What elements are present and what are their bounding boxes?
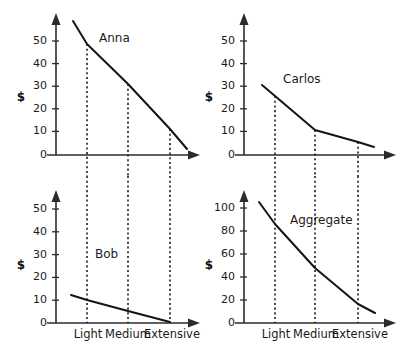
carlos-ytick-label-0: 0 bbox=[228, 148, 235, 161]
panel-aggregate: 100 80 60 40 20 0 $ Aggregate Light Medi… bbox=[205, 176, 396, 341]
bob-ytick-label-50: 50 bbox=[33, 202, 47, 215]
anna-y-axis-arrow bbox=[52, 13, 61, 25]
carlos-y-axis-arrow bbox=[240, 13, 249, 25]
panel-anna: 50 40 30 20 10 0 $ Anna bbox=[17, 13, 200, 176]
carlos-ytick-label-30: 30 bbox=[221, 79, 235, 92]
bob-ytick-label-20: 20 bbox=[33, 270, 47, 283]
bob-series-label: Bob bbox=[95, 247, 118, 261]
anna-ytick-label-20: 20 bbox=[33, 102, 47, 115]
aggregate-xtick-label-light: Light bbox=[262, 327, 291, 341]
carlos-x-axis-arrow bbox=[384, 151, 396, 160]
four-panel-demand-chart: 50 40 30 20 10 0 $ Anna 5 bbox=[0, 0, 406, 351]
bob-ytick-label-30: 30 bbox=[33, 248, 47, 261]
bob-demand-curve bbox=[71, 295, 170, 322]
anna-y-axis-title: $ bbox=[17, 90, 25, 104]
aggregate-xtick-label-extensive: Extensive bbox=[332, 327, 388, 341]
carlos-ytick-label-10: 10 bbox=[221, 124, 235, 137]
aggregate-ytick-label-100: 100 bbox=[214, 201, 235, 214]
bob-ytick-label-40: 40 bbox=[33, 225, 47, 238]
carlos-ytick-label-20: 20 bbox=[221, 102, 235, 115]
bob-xtick-label-light: Light bbox=[74, 327, 103, 341]
panel-carlos: 50 40 30 20 10 0 $ Carlos bbox=[205, 13, 396, 176]
anna-series-label: Anna bbox=[99, 31, 130, 45]
carlos-ytick-label-40: 40 bbox=[221, 57, 235, 70]
aggregate-ytick-label-20: 20 bbox=[221, 293, 235, 306]
bob-xtick-label-extensive: Extensive bbox=[144, 327, 200, 341]
carlos-series-label: Carlos bbox=[283, 72, 321, 86]
bob-y-axis-title: $ bbox=[17, 258, 25, 272]
aggregate-ytick-label-0: 0 bbox=[228, 316, 235, 329]
bob-y-axis-arrow bbox=[52, 190, 61, 202]
aggregate-y-axis-arrow bbox=[240, 190, 249, 202]
carlos-ytick-label-50: 50 bbox=[221, 34, 235, 47]
panel-bob: 50 40 30 20 10 0 $ Bob Light Medium Exte… bbox=[17, 176, 200, 341]
aggregate-ytick-label-40: 40 bbox=[221, 270, 235, 283]
aggregate-ytick-label-80: 80 bbox=[221, 224, 235, 237]
anna-ytick-label-0: 0 bbox=[40, 148, 47, 161]
aggregate-y-axis-title: $ bbox=[205, 258, 213, 272]
anna-ytick-label-40: 40 bbox=[33, 57, 47, 70]
chart-canvas: 50 40 30 20 10 0 $ Anna 5 bbox=[0, 0, 406, 351]
anna-x-axis-arrow bbox=[188, 151, 200, 160]
anna-ytick-label-50: 50 bbox=[33, 34, 47, 47]
aggregate-series-label: Aggregate bbox=[290, 213, 353, 227]
anna-ytick-label-10: 10 bbox=[33, 124, 47, 137]
bob-ytick-label-0: 0 bbox=[40, 316, 47, 329]
anna-ytick-label-30: 30 bbox=[33, 79, 47, 92]
bob-ytick-label-10: 10 bbox=[33, 293, 47, 306]
carlos-y-axis-title: $ bbox=[205, 90, 213, 104]
carlos-demand-curve bbox=[262, 85, 374, 147]
anna-demand-curve bbox=[73, 21, 187, 149]
aggregate-ytick-label-60: 60 bbox=[221, 247, 235, 260]
